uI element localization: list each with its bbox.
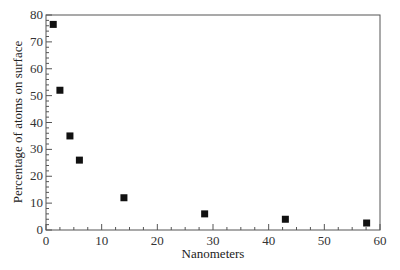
y-tick-label: 50	[30, 88, 43, 103]
y-tick-label: 30	[30, 141, 43, 156]
x-tick-label: 60	[374, 233, 387, 248]
y-tick-label: 80	[30, 7, 43, 22]
data-point-marker	[120, 194, 127, 201]
data-point-marker	[363, 220, 370, 227]
data-point-marker	[282, 216, 289, 223]
data-point-marker	[50, 21, 57, 28]
y-tick-label: 60	[30, 61, 43, 76]
x-tick-label: 50	[318, 233, 331, 248]
x-tick-label: 10	[95, 233, 108, 248]
data-point-marker	[76, 157, 83, 164]
x-axis-title: Nanometers	[182, 246, 245, 261]
y-axis-title: Percentage of atoms on surface	[10, 41, 25, 204]
x-tick-label: 40	[262, 233, 275, 248]
y-tick-label: 40	[30, 115, 43, 130]
plot-frame	[46, 15, 380, 230]
x-tick-label: 0	[43, 233, 50, 248]
data-points	[50, 21, 370, 227]
data-point-marker	[66, 132, 73, 139]
y-tick-label: 10	[30, 195, 43, 210]
y-tick-label: 20	[30, 168, 43, 183]
scatter-chart: 010203040506001020304050607080 Nanometer…	[0, 0, 400, 270]
y-tick-label: 70	[30, 34, 43, 49]
data-point-marker	[56, 87, 63, 94]
x-tick-label: 20	[151, 233, 164, 248]
axis-ticks: 010203040506001020304050607080	[30, 7, 387, 248]
data-point-marker	[201, 210, 208, 217]
y-tick-label: 0	[37, 222, 44, 237]
